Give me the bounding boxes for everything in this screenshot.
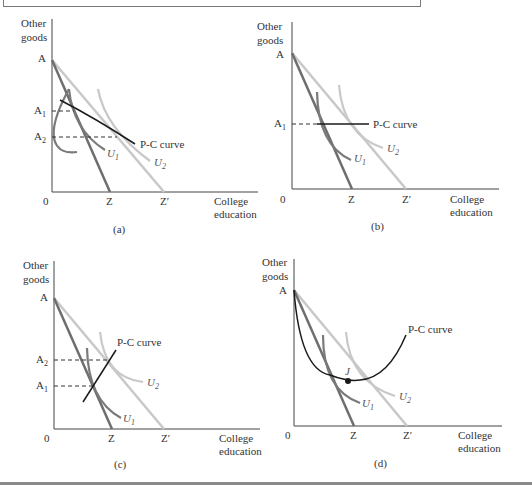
u1-label: U1 [362, 397, 374, 412]
u1-label: U1 [107, 147, 119, 162]
pc-curve-label: P-C curve [140, 138, 184, 150]
y-axis-label-line2: goods [23, 273, 49, 285]
y-axis-label-line1: Other [23, 259, 48, 271]
budget-line-original [54, 298, 112, 429]
level-a1-label: A1 [36, 379, 48, 394]
x-axis-label-line2: education [450, 206, 493, 218]
panel-caption: (d) [374, 457, 387, 470]
budget-line-original [292, 53, 352, 189]
u1-label: U1 [354, 152, 366, 167]
indifference-curve-u2 [346, 332, 395, 396]
panel-a: Other goods A A1 A2 P-C curve U1 U2 0 Z … [21, 17, 258, 236]
x-axis-label-line1: College [450, 193, 484, 205]
pc-curve-label: P-C curve [408, 323, 452, 335]
pc-curve-label: P-C curve [117, 336, 161, 348]
y-axis-label-line2: goods [21, 31, 47, 43]
pc-curve [294, 290, 406, 380]
indifference-curve-u2 [339, 85, 383, 148]
y-axis-label-line2: goods [262, 270, 288, 282]
intercept-label: A [276, 48, 284, 60]
price-consumption-diagram: Other goods A A1 A2 P-C curve U1 U2 0 Z … [0, 0, 532, 492]
origin-label: 0 [43, 195, 49, 207]
y-axis-label-line1: Other [262, 256, 287, 268]
u1-label: U1 [123, 412, 135, 427]
budget-label-z-prime: Z′ [402, 193, 411, 205]
u2-label: U2 [399, 390, 411, 405]
panel-caption: (b) [371, 220, 384, 233]
x-axis-label-line1: College [219, 432, 253, 444]
budget-label-z-prime: Z′ [403, 429, 412, 441]
panel-caption: (a) [113, 223, 126, 236]
budget-label-z: Z [350, 429, 357, 441]
y-axis-label-line2: goods [257, 34, 283, 46]
budget-label-z-prime: Z′ [160, 195, 169, 207]
budget-line-new [294, 290, 407, 426]
intercept-label: A [279, 284, 287, 296]
origin-label: 0 [44, 432, 50, 444]
indifference-curve-u1 [54, 89, 77, 152]
panel-caption: (c) [114, 458, 127, 471]
budget-label-z: Z [348, 193, 355, 205]
u2-label: U2 [387, 142, 399, 157]
equilibrium-point-j [345, 378, 351, 384]
intercept-label: A [40, 291, 48, 303]
bottom-rule [0, 482, 532, 485]
x-axis-label-line1: College [214, 195, 248, 207]
x-axis-label-line2: education [458, 442, 501, 454]
origin-label: 0 [285, 429, 291, 441]
u2-label: U2 [154, 156, 166, 171]
point-label-j: J [345, 365, 351, 377]
x-axis-label-line1: College [458, 429, 492, 441]
level-a2-label: A2 [36, 353, 48, 368]
panel-c: Other goods A P-C curve A2 A1 U1 U2 0 Z … [23, 259, 262, 471]
pc-curve-label: P-C curve [373, 118, 417, 130]
budget-label-z: Z [108, 432, 115, 444]
budget-line-new [52, 60, 164, 192]
budget-label-z-prime: Z′ [161, 432, 170, 444]
x-axis-label-line2: education [219, 445, 262, 457]
u2-label: U2 [147, 376, 159, 391]
level-a2-label: A2 [34, 130, 46, 145]
origin-label: 0 [280, 193, 286, 205]
y-axis-label-line1: Other [257, 20, 282, 32]
panel-b: Other goods A P-C curve A1 U1 U2 0 Z Z′ … [257, 20, 499, 233]
level-a1-label: A1 [34, 104, 46, 119]
x-axis-label-line2: education [214, 208, 257, 220]
level-a1-label: A1 [274, 117, 286, 132]
intercept-label: A [38, 52, 46, 64]
indifference-curve-u1 [323, 335, 360, 403]
budget-label-z: Z [106, 195, 113, 207]
y-axis-label-line1: Other [21, 17, 46, 29]
panel-d: Other goods A J P-C curve U1 U2 0 Z Z′ C… [262, 256, 502, 470]
